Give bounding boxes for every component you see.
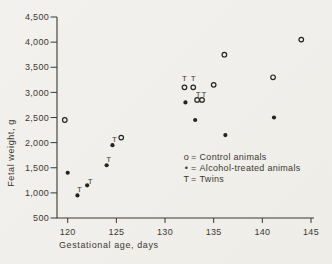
legend-equals: = bbox=[191, 174, 197, 184]
control-point bbox=[62, 118, 67, 123]
twin-marker: T bbox=[112, 135, 117, 144]
scanned-figure-page: { "colors": { "paper": "#f1efeb", "ink":… bbox=[0, 0, 332, 264]
alcohol-treated-point bbox=[272, 115, 276, 119]
y-tick-label: 1,500 bbox=[25, 163, 49, 173]
y-tick-label: 4,000 bbox=[25, 37, 49, 47]
twin-marker: T bbox=[77, 185, 82, 194]
control-point bbox=[299, 37, 304, 42]
alcohol-treated-point bbox=[193, 118, 197, 122]
twin-marker: T bbox=[191, 74, 196, 83]
y-tick-label: 2,000 bbox=[25, 138, 49, 148]
control-point bbox=[182, 85, 187, 90]
y-axis-title: Fetal weight, g bbox=[6, 119, 16, 187]
legend-label-twins: Twins bbox=[200, 174, 225, 184]
legend-label-control: Control animals bbox=[200, 152, 267, 162]
legend: o=Control animals •=Alcohol-treated anim… bbox=[183, 152, 301, 185]
x-tick-label: 140 bbox=[254, 227, 270, 237]
y-tick-label: 3,000 bbox=[25, 88, 49, 98]
y-tick-label: 4,500 bbox=[25, 12, 49, 22]
x-tick-label: 145 bbox=[303, 227, 319, 237]
legend-item-alcohol: •=Alcohol-treated animals bbox=[183, 163, 301, 174]
x-tick-label: 125 bbox=[108, 227, 124, 237]
twin-symbol-icon: T bbox=[183, 174, 190, 185]
y-tick-label: 1,000 bbox=[25, 188, 49, 198]
alcohol-treated-point bbox=[183, 100, 187, 104]
twin-marker: T bbox=[182, 74, 187, 83]
legend-label-alcohol: Alcohol-treated animals bbox=[200, 163, 301, 173]
y-tick-label: 3,500 bbox=[25, 62, 49, 72]
fetal-weight-scatter-figure: 5001,0001,5002,0002,5003,0003,5004,0004,… bbox=[0, 0, 332, 264]
alcohol-treated-point bbox=[66, 171, 70, 175]
x-tick-label: 120 bbox=[60, 227, 76, 237]
twin-marker: T bbox=[196, 90, 201, 99]
control-point bbox=[271, 75, 276, 80]
alcohol-treated-point bbox=[223, 133, 227, 137]
twin-marker: T bbox=[106, 155, 111, 164]
legend-item-control: o=Control animals bbox=[183, 152, 301, 163]
legend-equals: = bbox=[191, 152, 197, 162]
legend-equals: = bbox=[191, 163, 197, 173]
legend-item-twins: T=Twins bbox=[183, 174, 301, 185]
filled-circle-icon: • bbox=[183, 163, 190, 174]
control-point bbox=[191, 85, 196, 90]
control-point bbox=[119, 135, 124, 140]
chart-canvas: 5001,0001,5002,0002,5003,0003,5004,0004,… bbox=[0, 0, 332, 264]
twin-marker: T bbox=[202, 90, 207, 99]
x-axis-title: Gestational age, days bbox=[59, 240, 159, 250]
y-tick-label: 500 bbox=[33, 213, 49, 223]
control-point bbox=[222, 52, 227, 57]
x-tick-label: 130 bbox=[157, 227, 173, 237]
twin-marker: T bbox=[88, 177, 93, 186]
control-point bbox=[211, 83, 216, 88]
x-tick-label: 135 bbox=[206, 227, 222, 237]
open-circle-icon: o bbox=[183, 152, 190, 163]
y-tick-label: 2,500 bbox=[25, 113, 49, 123]
